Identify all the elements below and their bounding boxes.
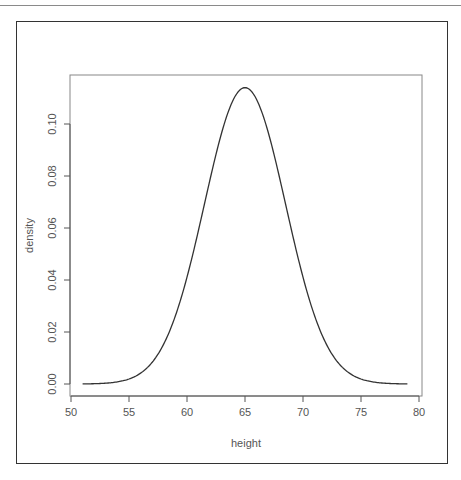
y-tick-label: 0.08: [46, 165, 58, 186]
x-axis: 50556065707580: [65, 396, 425, 418]
x-tick-label: 55: [123, 406, 135, 418]
y-tick-label: 0.02: [46, 321, 58, 342]
x-tick-label: 80: [413, 406, 425, 418]
y-tick-label: 0.04: [46, 269, 58, 290]
y-axis-label: density: [23, 218, 35, 253]
y-tick-label: 0.10: [46, 113, 58, 134]
density-chart: 50556065707580 0.000.020.040.060.080.10 …: [0, 0, 461, 480]
x-tick-label: 75: [355, 406, 367, 418]
y-tick-label: 0.06: [46, 217, 58, 238]
plot-area: [70, 75, 422, 396]
x-tick-label: 50: [65, 406, 77, 418]
x-tick-label: 65: [239, 406, 251, 418]
x-axis-label: height: [231, 437, 261, 449]
x-tick-label: 70: [297, 406, 309, 418]
y-tick-label: 0.00: [46, 373, 58, 394]
density-curve: [83, 88, 408, 384]
y-axis: 0.000.020.040.060.080.10: [46, 113, 70, 394]
x-tick-label: 60: [181, 406, 193, 418]
